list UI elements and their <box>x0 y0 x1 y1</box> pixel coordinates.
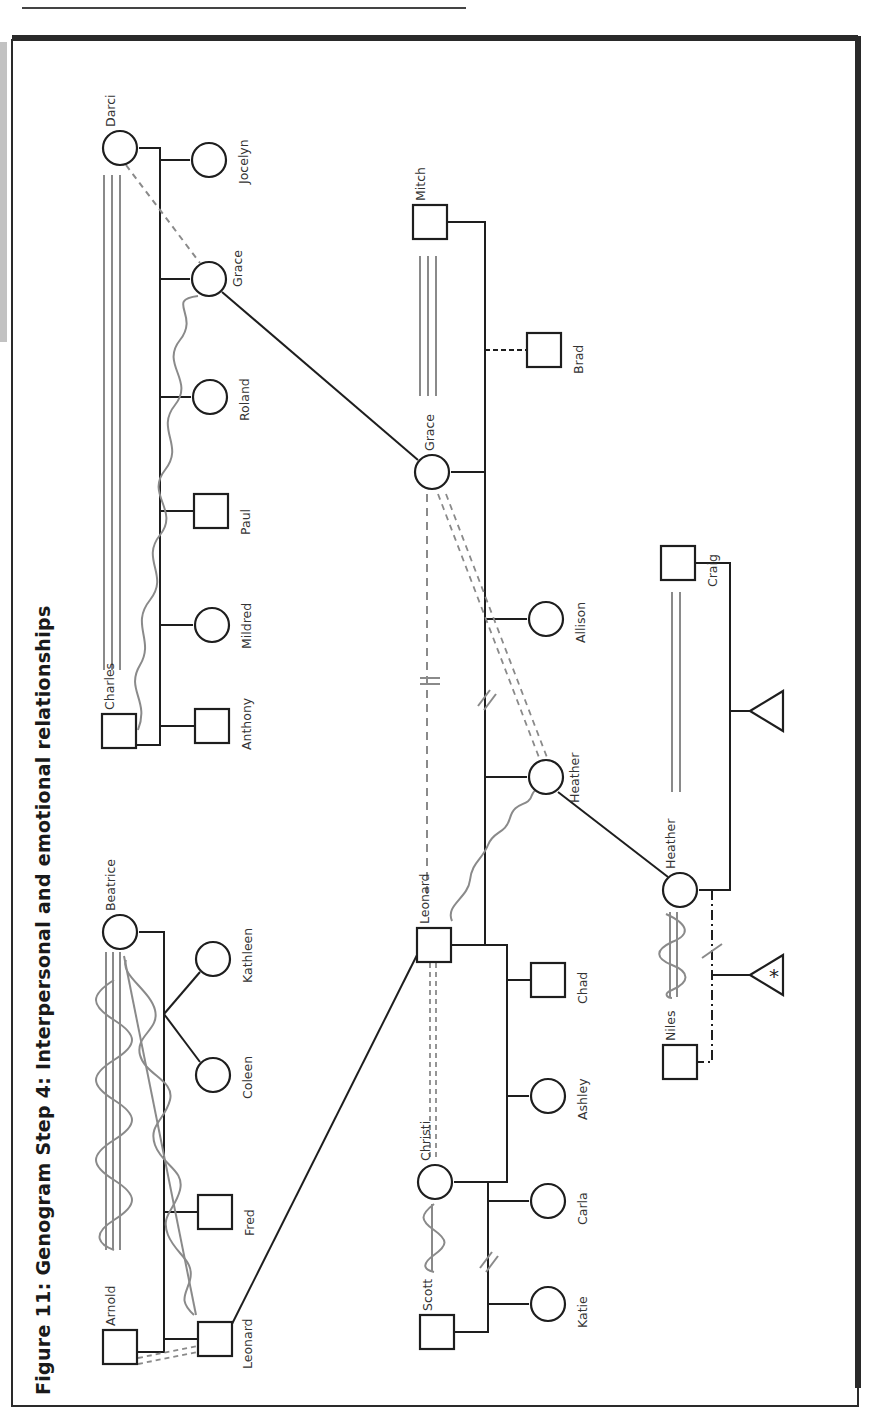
person-name-label: Paul <box>238 509 253 535</box>
female-circle-icon <box>415 455 449 489</box>
female-circle-icon <box>196 942 230 976</box>
person-name-label: Darci <box>103 95 118 128</box>
male-square-icon <box>198 1322 232 1356</box>
person-name-label: Chad <box>575 972 590 1004</box>
female-circle-icon <box>531 1079 565 1113</box>
person-name-label: Grace <box>422 414 437 451</box>
person-name-label: Charles <box>102 663 117 710</box>
person-name-label: Leonard <box>240 1318 255 1369</box>
person-name-label: Heather <box>663 818 678 869</box>
person-name-label: Mitch <box>413 167 428 201</box>
male-square-icon <box>661 546 695 580</box>
person-name-label: Allison <box>573 602 588 643</box>
female-circle-icon <box>193 380 227 414</box>
female-circle-icon <box>531 1184 565 1218</box>
person-name-label: Mildred <box>239 603 254 649</box>
person-name-label: Arnold <box>103 1286 118 1326</box>
person-name-label: Niles <box>663 1011 678 1042</box>
person-name-label: Fred <box>242 1209 257 1236</box>
genogram-canvas: Figure 11: Genogram Step 4: Interpersona… <box>0 0 893 1414</box>
page-edge-shadow <box>0 42 7 342</box>
person-name-label: Kathleen <box>240 928 255 983</box>
person-name-label: Craig <box>705 554 720 587</box>
person-name-label: Anthony <box>239 697 254 750</box>
male-square-icon <box>531 963 565 997</box>
female-circle-icon <box>418 1165 452 1199</box>
person-name-label: Grace <box>230 250 245 287</box>
person-name-label: Beatrice <box>103 859 118 911</box>
person-name-label: Heather <box>567 752 582 803</box>
female-circle-icon <box>103 915 137 949</box>
male-square-icon <box>413 205 447 239</box>
person-name-label: Christi <box>418 1121 433 1161</box>
person-name-label: Jocelyn <box>236 139 251 185</box>
female-circle-icon <box>529 760 563 794</box>
male-square-icon <box>194 494 228 528</box>
male-square-icon <box>198 1195 232 1229</box>
person-name-label: Ashley <box>575 1078 590 1120</box>
person-name-label: Katie <box>575 1296 590 1328</box>
male-square-icon <box>103 1330 137 1364</box>
male-square-icon <box>417 928 451 962</box>
female-circle-icon <box>531 1287 565 1321</box>
person-name-label: Coleen <box>240 1056 255 1099</box>
female-circle-icon <box>192 262 226 296</box>
figure-title: Figure 11: Genogram Step 4: Interpersona… <box>32 606 54 1396</box>
female-circle-icon <box>529 602 563 636</box>
male-square-icon <box>195 709 229 743</box>
genogram-figure: Figure 11: Genogram Step 4: Interpersona… <box>0 0 893 1414</box>
person-name-label: Brad <box>571 345 586 374</box>
female-circle-icon <box>196 1058 230 1092</box>
female-circle-icon <box>195 608 229 642</box>
female-circle-icon <box>192 143 226 177</box>
person-name-label: Scott <box>420 1279 435 1311</box>
female-circle-icon <box>103 131 137 165</box>
female-circle-icon <box>663 873 697 907</box>
person-name-label: Roland <box>237 378 252 421</box>
male-square-icon <box>420 1315 454 1349</box>
person-name-label: Carla <box>575 1192 590 1225</box>
person-name-label: Leonard <box>417 873 432 924</box>
male-square-icon <box>102 714 136 748</box>
male-square-icon <box>663 1045 697 1079</box>
asterisk-icon: * <box>769 964 779 988</box>
male-square-icon <box>527 333 561 367</box>
